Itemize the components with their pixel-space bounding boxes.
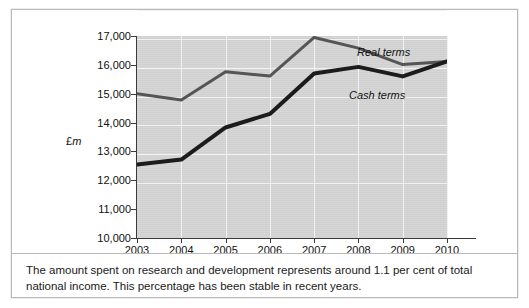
y-tick-label: 13,000: [75, 146, 131, 157]
x-axis-line: [136, 238, 476, 239]
x-tick: [447, 238, 448, 243]
figure-container: 10,00011,00012,00013,00014,00015,00016,0…: [11, 9, 518, 298]
series-label-real-terms: Real terms: [357, 46, 410, 58]
series-line-cash-terms: [137, 61, 447, 164]
chart-lines: [137, 36, 447, 238]
x-tick: [358, 238, 359, 243]
figure-caption: The amount spent on research and develop…: [12, 254, 517, 294]
y-tick-label: 17,000: [75, 31, 131, 42]
chart-area: 10,00011,00012,00013,00014,00015,00016,0…: [12, 10, 517, 253]
x-tick: [403, 238, 404, 243]
x-tick: [137, 238, 138, 243]
y-tick-label: 14,000: [75, 118, 131, 129]
series-label-cash-terms: Cash terms: [349, 89, 405, 101]
x-tick: [270, 238, 271, 243]
y-tick-label: 15,000: [75, 89, 131, 100]
y-tick-label: 11,000: [75, 204, 131, 215]
x-tick: [181, 238, 182, 243]
y-tick-label: 10,000: [75, 233, 131, 244]
y-axis-title: £m: [66, 135, 81, 147]
x-tick: [314, 238, 315, 243]
x-tick: [226, 238, 227, 243]
y-tick-label: 16,000: [75, 60, 131, 71]
y-tick-label: 12,000: [75, 175, 131, 186]
